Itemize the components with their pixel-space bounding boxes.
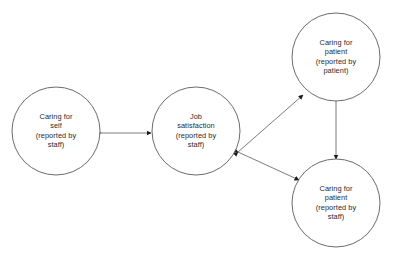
edge-jobsatisfaction-to-patientstaff bbox=[238, 152, 299, 180]
diagram-canvas: Caring for self (reported by staff) Job … bbox=[0, 0, 394, 262]
nodes-group bbox=[12, 13, 380, 247]
node-circle-job-satisfaction-staff[interactable] bbox=[152, 87, 240, 175]
node-circle-caring-for-self-staff[interactable] bbox=[12, 87, 100, 175]
diagram-graphics bbox=[0, 0, 394, 262]
node-circle-caring-for-patient-staff[interactable] bbox=[292, 159, 380, 247]
node-circle-caring-for-patient-patient[interactable] bbox=[292, 13, 380, 101]
edge-jobsatisfaction-to-patientpatient bbox=[238, 95, 303, 152]
